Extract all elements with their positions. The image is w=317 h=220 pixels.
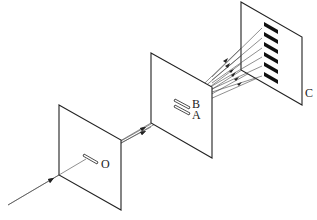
source-slit-panel: O [59, 105, 121, 210]
label-c: C [305, 86, 313, 100]
arrow-icon [140, 131, 146, 135]
screen-c: C [241, 2, 313, 105]
double-slit-diagram: C B A O [0, 0, 317, 220]
label-o: O [101, 157, 110, 171]
double-slit-panel: B A [151, 53, 212, 158]
label-a: A [192, 108, 201, 122]
incoming-ray-front [8, 175, 59, 205]
arrow-icon [48, 178, 54, 183]
rays-o-to-ab-front [121, 124, 151, 143]
